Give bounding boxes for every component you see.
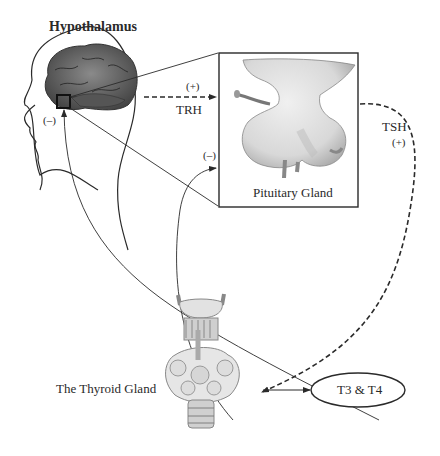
feedback-pituitary-sign: (–) (203, 150, 216, 161)
pituitary-label: Pituitary Gland (253, 186, 333, 199)
trh-label: TRH (176, 103, 202, 116)
tsh-plus-sign: (+) (392, 137, 406, 148)
feedback-hypothalamus-sign: (–) (43, 115, 56, 126)
hypothalamus-label: Hypothalamus (49, 20, 137, 34)
tsh-label: TSH (382, 120, 407, 133)
hormones-label: T3 & T4 (337, 383, 382, 396)
thyroid-label: The Thyroid Gland (56, 382, 156, 395)
brain-illustration (45, 44, 137, 110)
thyroid-illustration (166, 294, 240, 428)
trh-plus-sign: (+) (186, 81, 200, 92)
